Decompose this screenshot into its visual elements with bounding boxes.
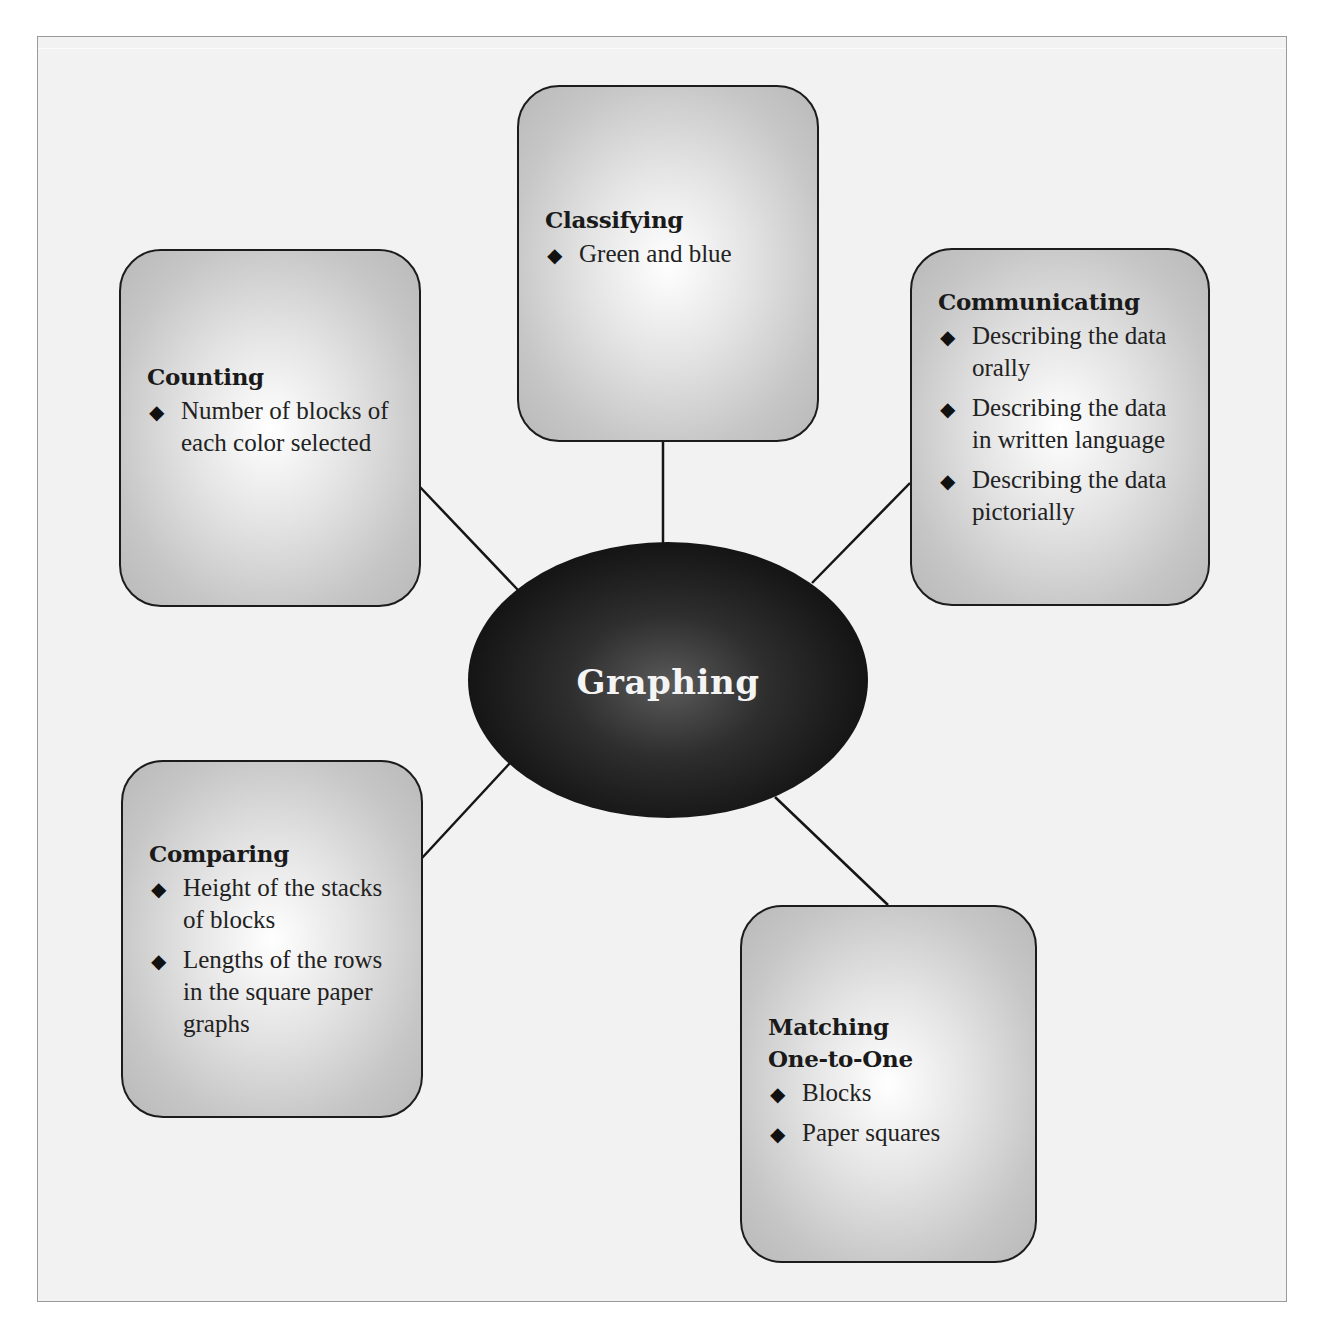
- node-items: ◆Describing the data orally ◆Describing …: [938, 320, 1170, 536]
- node-title: Comparing: [149, 838, 391, 870]
- diamond-bullet-icon: ◆: [547, 239, 562, 271]
- diamond-bullet-icon: ◆: [151, 873, 166, 905]
- diamond-bullet-icon: ◆: [151, 945, 166, 977]
- connector-matching: [775, 797, 888, 905]
- diamond-bullet-icon: ◆: [940, 393, 955, 425]
- hub-graphing: Graphing: [468, 542, 868, 818]
- node-classifying: Classifying ◆Green and blue: [517, 85, 819, 442]
- diamond-bullet-icon: ◆: [940, 321, 955, 353]
- list-item: ◆Describing the data in written language: [938, 392, 1170, 456]
- list-item: ◆Blocks: [768, 1077, 955, 1109]
- connector-communicating: [812, 483, 910, 583]
- diamond-bullet-icon: ◆: [940, 465, 955, 497]
- connector-comparing: [422, 763, 510, 858]
- node-title: Communicating: [938, 286, 1170, 318]
- node-items: ◆Height of the stacks of blocks ◆Lengths…: [149, 872, 391, 1048]
- node-title: Matching One-to-One: [768, 1011, 955, 1075]
- node-counting: Counting ◆Number of blocks of each color…: [119, 249, 421, 607]
- node-communicating: Communicating ◆Describing the data orall…: [910, 248, 1210, 606]
- connector-counting: [420, 487, 518, 590]
- node-title: Counting: [147, 361, 399, 393]
- list-item: ◆Describing the data orally: [938, 320, 1170, 384]
- node-items: ◆Number of blocks of each color selected: [147, 395, 399, 467]
- node-matching: Matching One-to-One ◆Blocks ◆Paper squar…: [740, 905, 1037, 1263]
- list-item: ◆Green and blue: [545, 238, 797, 270]
- node-comparing: Comparing ◆Height of the stacks of block…: [121, 760, 423, 1118]
- node-title: Classifying: [545, 204, 797, 236]
- list-item: ◆Number of blocks of each color selected: [147, 395, 399, 459]
- diamond-bullet-icon: ◆: [770, 1118, 785, 1150]
- node-items: ◆Green and blue: [545, 238, 797, 278]
- node-items: ◆Blocks ◆Paper squares: [768, 1077, 955, 1157]
- hub-label: Graphing: [577, 662, 760, 702]
- list-item: ◆Paper squares: [768, 1117, 955, 1149]
- list-item: ◆Lengths of the rows in the square paper…: [149, 944, 391, 1040]
- list-item: ◆Height of the stacks of blocks: [149, 872, 391, 936]
- diamond-bullet-icon: ◆: [770, 1078, 785, 1110]
- list-item: ◆Describing the data pictorially: [938, 464, 1170, 528]
- diamond-bullet-icon: ◆: [149, 396, 164, 428]
